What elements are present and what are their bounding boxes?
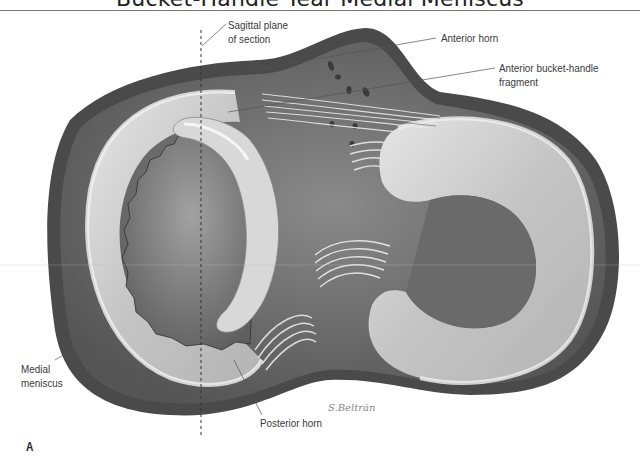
label-sagittal-plane: Sagittal plane of section: [228, 18, 288, 46]
panel-letter: A: [26, 440, 33, 454]
label-line: meniscus: [21, 376, 63, 390]
label-anterior-horn: Anterior horn: [441, 31, 498, 45]
label-posterior-horn: Posterior horn: [260, 416, 322, 430]
label-line: Anterior bucket-handle: [499, 61, 599, 75]
label-line: of section: [228, 32, 288, 46]
label-anterior-fragment: Anterior bucket-handle fragment: [499, 61, 599, 89]
label-line: Sagittal plane: [228, 18, 288, 32]
label-medial-meniscus: Medial meniscus: [21, 362, 63, 390]
label-line: Medial: [21, 362, 63, 376]
artist-signature: S.Beltrán: [328, 402, 375, 413]
label-line: fragment: [499, 75, 599, 89]
